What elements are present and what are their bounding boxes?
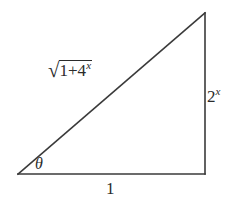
- radicand-expression: 1+4x: [59, 60, 92, 80]
- vertical-leg-exponent-text: x: [216, 85, 221, 97]
- radical-sign-icon: √: [48, 61, 60, 81]
- triangle-shape: [0, 0, 232, 207]
- vertical-leg-label: 2x: [207, 88, 220, 105]
- right-triangle-figure: √ 1+4x 2x 1 θ: [0, 0, 232, 207]
- hypotenuse-label: √ 1+4x: [48, 60, 92, 80]
- base-leg-label: 1: [106, 180, 115, 197]
- radicand-exponent-text: x: [86, 59, 91, 71]
- vertical-leg-base-text: 2: [207, 87, 216, 106]
- radicand-base-text: 1+4: [60, 61, 87, 80]
- triangle-hypotenuse-line: [18, 13, 205, 174]
- angle-theta-label: θ: [35, 156, 43, 172]
